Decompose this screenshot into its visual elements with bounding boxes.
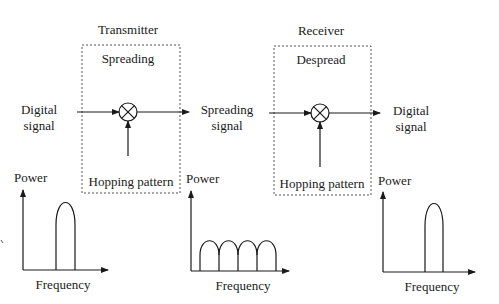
- transmitter-title: Transmitter: [95, 22, 161, 37]
- transmitter-multiplier-icon: [119, 103, 137, 121]
- diagram-canvas: [0, 0, 499, 304]
- spectrum-output: [383, 192, 475, 272]
- receiver-multiplier-icon: [311, 104, 329, 122]
- tx-hopping-pattern-label: Hopping pattern: [84, 174, 178, 189]
- despread-label: Despread: [288, 52, 354, 67]
- spreading-signal-line1: Spreading: [196, 102, 258, 117]
- spectrum1-y-label: Power: [14, 170, 54, 185]
- output-signal-line1: Digital: [386, 103, 436, 118]
- spectrum3-y-label: Power: [378, 173, 418, 188]
- spectrum1-x-label: Frequency: [30, 277, 96, 292]
- spectrum2-x-label: Frequency: [210, 278, 276, 293]
- rx-hopping-pattern-label: Hopping pattern: [275, 176, 369, 191]
- spectrum2-y-label: Power: [186, 171, 226, 186]
- spectrum-input: [23, 190, 108, 270]
- input-signal-line1: Digital: [14, 102, 64, 117]
- spectrum-spread: [191, 191, 289, 271]
- receiver-title: Receiver: [288, 23, 354, 38]
- edge-artifact: [1, 240, 3, 243]
- spreading-signal-line2: signal: [196, 118, 258, 133]
- spectrum3-x-label: Frequency: [399, 279, 465, 294]
- input-signal-line2: signal: [14, 118, 64, 133]
- output-signal-line2: signal: [386, 119, 436, 134]
- transmitter-box: [82, 45, 180, 193]
- spreading-label: Spreading: [95, 51, 161, 66]
- receiver-box: [274, 46, 371, 195]
